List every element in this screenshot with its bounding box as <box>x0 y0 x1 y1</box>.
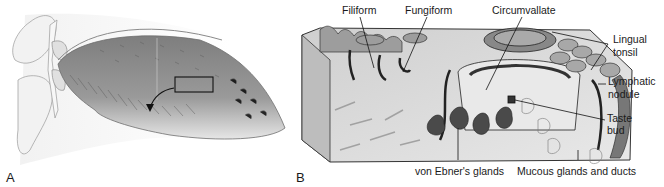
label-lymphatic-nodule-line2: nodule <box>608 88 640 100</box>
label-lingual-tonsil-line1: Lingual <box>613 33 647 45</box>
label-mucous-glands-and-ducts: Mucous glands and ducts <box>517 165 636 177</box>
panel-letter-b: B <box>296 170 305 185</box>
tongue-illustration <box>0 0 290 187</box>
label-lingual-tonsil-line2: tonsil <box>613 46 638 58</box>
taste-bud-marker <box>508 96 515 103</box>
label-filiform: Filiform <box>342 4 376 16</box>
label-taste-bud-line1: Taste <box>607 112 632 124</box>
label-von-ebners-glands: von Ebner's glands <box>415 165 504 177</box>
label-circumvallate: Circumvallate <box>492 4 556 16</box>
panel-a-tongue-overview: A <box>0 0 290 187</box>
panel-b-tongue-cross-section: Filiform Fungiform Circumvallate Lingual… <box>290 0 664 187</box>
label-taste-bud-line2: bud <box>607 124 625 136</box>
panel-letter-a: A <box>6 170 15 185</box>
label-lymphatic-nodule-line1: Lymphatic <box>608 75 655 87</box>
label-fungiform: Fungiform <box>405 4 452 16</box>
